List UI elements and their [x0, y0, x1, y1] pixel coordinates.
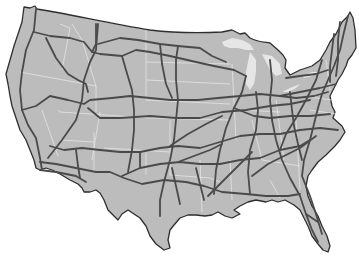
map-canvas	[0, 0, 359, 256]
us-highway-map: United States Interstate Highway Map	[0, 0, 359, 256]
